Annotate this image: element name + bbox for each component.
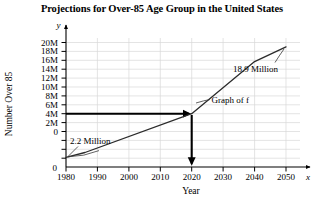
x-tick-label: 2050: [277, 172, 296, 182]
x-axis: [66, 167, 310, 172]
y-tick-label: 0: [54, 127, 59, 137]
x-tick-label: 2010: [151, 172, 170, 182]
x-tick-label: 1990: [88, 172, 107, 182]
x-tick-label: 2040: [246, 172, 265, 182]
x-tick-label: 1980: [57, 172, 76, 182]
y-tick-labels: 20M 18M 16M 14M 12M 10M 8M 6M 4M 2M 0: [41, 38, 59, 137]
x-tick-label: 2030: [214, 172, 233, 182]
annotation-label: 2.2 Million: [70, 136, 111, 146]
x-axis-title: Year: [182, 186, 200, 196]
annotation-18-9-million: 18.9 Million: [233, 49, 284, 74]
chart-figure: Projections for Over-85 Age Group in the…: [0, 0, 324, 203]
x-tick-labels: 0 1980 1990 2000 2010 2020 2030 2040 205…: [53, 163, 296, 183]
y-axis-symbol: y: [56, 20, 61, 30]
y-axis-title: Number Over 85: [4, 72, 14, 137]
y-tick-label-zero: 0: [53, 163, 58, 173]
annotation-label: 18.9 Million: [233, 64, 279, 74]
y-axis: [62, 25, 67, 167]
x-axis-symbol: x: [305, 172, 310, 182]
annotation-2-2-million: 2.2 Million: [68, 136, 111, 157]
x-tick-label: 2020: [183, 172, 202, 182]
annotation-label: Graph of f: [212, 95, 250, 105]
chart-canvas: 20M 18M 16M 14M 12M 10M 8M 6M 4M 2M 0 0 …: [0, 0, 324, 203]
x-tick-label: 2000: [120, 172, 139, 182]
